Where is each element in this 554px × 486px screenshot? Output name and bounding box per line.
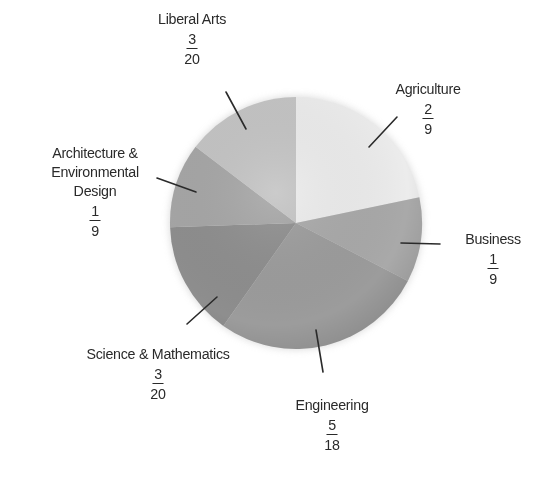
fraction-numerator: 5	[326, 416, 337, 435]
fraction-numerator: 3	[186, 30, 197, 49]
label-science-mathematics: Science & Mathematics 3 20	[66, 344, 250, 403]
fraction-denominator: 20	[150, 384, 165, 403]
fraction-agriculture: 2 9	[422, 100, 433, 138]
fraction-denominator: 18	[324, 435, 339, 454]
label-engineering-name: Engineering	[281, 395, 382, 414]
leader-line-business	[401, 243, 440, 244]
fraction-business: 1 9	[487, 250, 498, 288]
fraction-denominator: 9	[424, 119, 432, 138]
label-engineering: Engineering 5 18	[281, 395, 382, 454]
fraction-denominator: 20	[184, 49, 199, 68]
label-science-name: Science & Mathematics	[66, 344, 250, 363]
fraction-numerator: 1	[487, 250, 498, 269]
label-architecture-line1: Architecture &	[35, 143, 155, 162]
fraction-denominator: 9	[489, 269, 497, 288]
label-business: Business 1 9	[452, 229, 535, 288]
label-liberal-arts-name: Liberal Arts	[146, 9, 238, 28]
label-architecture-line2: Environmental	[35, 162, 155, 181]
fraction-science: 3 20	[150, 365, 165, 403]
label-architecture: Architecture & Environmental Design 1 9	[35, 143, 155, 240]
fraction-denominator: 9	[91, 221, 99, 240]
label-business-name: Business	[452, 229, 535, 248]
fraction-numerator: 2	[422, 100, 433, 119]
label-agriculture: Agriculture 2 9	[382, 79, 474, 138]
fraction-liberal-arts: 3 20	[184, 30, 199, 68]
label-liberal-arts: Liberal Arts 3 20	[146, 9, 238, 68]
fraction-numerator: 1	[89, 202, 100, 221]
fraction-numerator: 3	[152, 365, 163, 384]
fraction-architecture: 1 9	[89, 202, 100, 240]
label-agriculture-name: Agriculture	[382, 79, 474, 98]
label-architecture-line3: Design	[35, 181, 155, 200]
fraction-engineering: 5 18	[324, 416, 339, 454]
